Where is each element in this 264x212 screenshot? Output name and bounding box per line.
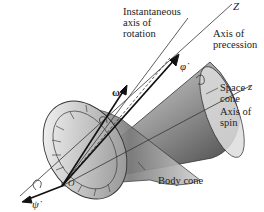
label-axis-of-precession: Axis of precession — [213, 28, 257, 50]
label-space-cone: Space cone — [220, 82, 245, 104]
symbol-omega: ω — [112, 86, 120, 98]
symbol-phi-dot: φ̇ — [180, 60, 186, 72]
label-instantaneous-axis: Instantaneous axis of rotation — [123, 6, 181, 39]
symbol-z: z — [248, 80, 252, 92]
label-body-cone: Body cone — [158, 175, 203, 186]
spin-curl-icon — [33, 180, 41, 190]
symbol-Z: Z — [233, 0, 239, 12]
symbol-psi-dot: ψ̇ — [32, 198, 39, 210]
symbol-origin: O — [68, 178, 75, 188]
psi-dot-arrowhead — [22, 196, 32, 203]
label-axis-of-spin: Axis of spin — [220, 106, 251, 128]
